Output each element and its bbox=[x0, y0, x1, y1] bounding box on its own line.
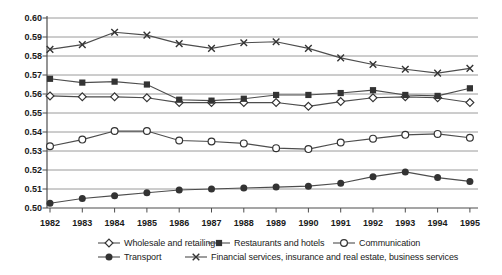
x-tick-label: 1992 bbox=[363, 218, 383, 228]
legend-item-communication: Communication bbox=[333, 237, 420, 249]
line-chart: 0.600.590.580.570.560.550.540.530.520.51… bbox=[0, 0, 502, 275]
plot-area: 0.600.590.580.570.560.550.540.530.520.51… bbox=[0, 0, 502, 232]
y-tick-label: 0.50 bbox=[24, 203, 42, 213]
circle-filled-marker bbox=[47, 200, 54, 207]
square-filled-marker bbox=[47, 76, 53, 82]
diamond-open-icon bbox=[98, 238, 120, 248]
legend-label: Communication bbox=[359, 237, 420, 249]
x-tick-label: 1985 bbox=[137, 218, 157, 228]
circle-open-marker bbox=[47, 143, 54, 150]
circle-open-marker bbox=[111, 128, 118, 135]
circle-filled-marker bbox=[273, 184, 280, 191]
x-tick-label: 1991 bbox=[331, 218, 351, 228]
square-filled-marker bbox=[370, 87, 376, 93]
circle-filled-marker bbox=[370, 173, 377, 180]
x-cross-icon bbox=[185, 252, 207, 262]
square-filled-marker bbox=[112, 79, 118, 85]
circle-filled-marker bbox=[176, 186, 183, 193]
diamond-open-marker bbox=[272, 99, 280, 107]
square-filled-marker bbox=[241, 96, 247, 102]
x-tick-label: 1982 bbox=[40, 218, 60, 228]
circle-open-marker bbox=[337, 139, 344, 146]
x-tick-label: 1988 bbox=[234, 218, 254, 228]
y-tick-label: 0.55 bbox=[24, 108, 42, 118]
square-filled-marker bbox=[435, 93, 441, 99]
x-tick-label: 1995 bbox=[460, 218, 480, 228]
square-filled-marker bbox=[402, 92, 408, 98]
square-filled-marker bbox=[305, 92, 311, 98]
square-filled-marker bbox=[338, 90, 344, 96]
legend-item-transport: Transport bbox=[98, 251, 161, 263]
square-filled-marker bbox=[467, 85, 473, 91]
square-filled-icon bbox=[208, 238, 230, 248]
x-tick-label: 1986 bbox=[169, 218, 189, 228]
square-filled-marker bbox=[208, 98, 214, 104]
diamond-open-marker bbox=[105, 239, 113, 247]
y-tick-label: 0.56 bbox=[24, 89, 42, 99]
y-tick-label: 0.51 bbox=[24, 184, 42, 194]
y-tick-label: 0.59 bbox=[24, 32, 42, 42]
diamond-open-marker bbox=[143, 94, 151, 102]
circle-filled-marker bbox=[402, 168, 409, 175]
diamond-open-marker bbox=[305, 102, 313, 110]
x-tick-label: 1990 bbox=[298, 218, 318, 228]
square-filled-marker bbox=[216, 240, 222, 246]
x-tick-label: 1984 bbox=[105, 218, 125, 228]
circle-open-marker bbox=[305, 146, 312, 153]
y-tick-label: 0.57 bbox=[24, 70, 42, 80]
y-tick-label: 0.52 bbox=[24, 165, 42, 175]
circle-filled-marker bbox=[337, 180, 344, 187]
legend-item-financial-services-insurance-a: Financial services, insurance and real e… bbox=[185, 251, 458, 263]
y-tick-label: 0.54 bbox=[24, 127, 42, 137]
circle-filled-marker bbox=[79, 195, 86, 202]
circle-open-icon bbox=[333, 238, 355, 248]
circle-filled-marker bbox=[208, 186, 215, 193]
circle-filled-marker bbox=[240, 185, 247, 192]
legend-label: Restaurants and hotels bbox=[234, 237, 324, 249]
circle-open-marker bbox=[467, 134, 474, 141]
circle-open-marker bbox=[240, 140, 247, 147]
circle-open-marker bbox=[402, 131, 409, 138]
circle-filled-marker bbox=[434, 174, 441, 181]
circle-open-marker bbox=[273, 145, 280, 152]
diamond-open-marker bbox=[369, 94, 377, 102]
circle-open-marker bbox=[434, 131, 441, 138]
circle-open-marker bbox=[208, 138, 215, 145]
circle-filled-marker bbox=[111, 192, 118, 199]
square-filled-marker bbox=[176, 97, 182, 103]
square-filled-marker bbox=[144, 81, 150, 87]
legend-item-restaurants-and-hotels: Restaurants and hotels bbox=[208, 237, 324, 249]
square-filled-marker bbox=[79, 80, 85, 86]
circle-filled-marker bbox=[466, 178, 473, 185]
circle-open-marker bbox=[370, 135, 377, 142]
y-tick-label: 0.60 bbox=[24, 13, 42, 23]
y-tick-label: 0.58 bbox=[24, 51, 42, 61]
x-tick-label: 1983 bbox=[72, 218, 92, 228]
circle-filled-marker bbox=[106, 253, 113, 260]
x-tick-label: 1994 bbox=[428, 218, 448, 228]
legend-item-wholesale-and-retailing: Wholesale and retailing bbox=[98, 237, 215, 249]
diamond-open-marker bbox=[466, 99, 474, 107]
y-tick-label: 0.53 bbox=[24, 146, 42, 156]
x-tick-label: 1989 bbox=[266, 218, 286, 228]
circle-open-marker bbox=[176, 137, 183, 144]
circle-filled-icon bbox=[98, 252, 120, 262]
circle-open-marker bbox=[341, 240, 348, 247]
circle-filled-marker bbox=[305, 183, 312, 190]
circle-open-marker bbox=[79, 136, 86, 143]
circle-filled-marker bbox=[143, 189, 150, 196]
circle-open-marker bbox=[144, 128, 151, 135]
legend-label: Wholesale and retailing bbox=[124, 237, 215, 249]
legend-label: Financial services, insurance and real e… bbox=[211, 251, 458, 263]
x-tick-label: 1987 bbox=[201, 218, 221, 228]
diamond-open-marker bbox=[337, 98, 345, 106]
legend-label: Transport bbox=[124, 251, 161, 263]
square-filled-marker bbox=[273, 92, 279, 98]
x-tick-label: 1993 bbox=[395, 218, 415, 228]
